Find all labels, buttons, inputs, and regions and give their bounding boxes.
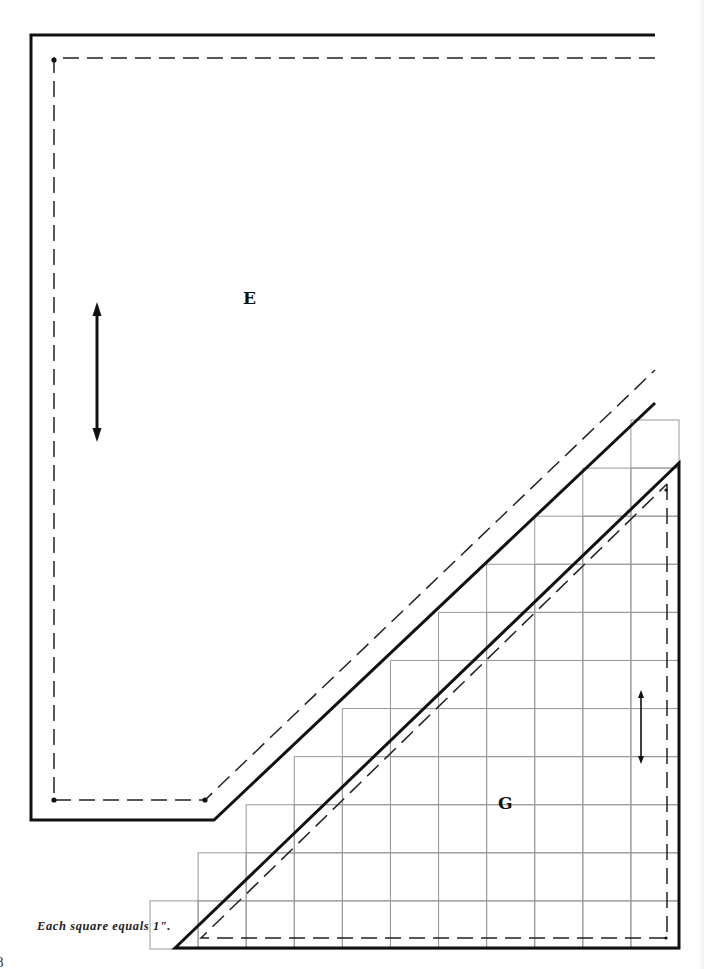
grid-square (342, 853, 390, 901)
grid-square (439, 757, 487, 805)
page-number: 8 (0, 954, 4, 969)
grid-square (535, 853, 583, 901)
grid-square (439, 709, 487, 757)
piece-g-corner-dot (664, 936, 667, 939)
grid-square (535, 757, 583, 805)
grid-square (439, 901, 487, 949)
grid-square (583, 468, 631, 516)
grid-square (583, 805, 631, 853)
grid-square (198, 901, 246, 949)
grid-square (583, 564, 631, 612)
piece-e-corner-dot (51, 57, 56, 62)
piece-g-corner-dot (664, 488, 667, 491)
grid-square (535, 660, 583, 708)
pattern-drawing (0, 0, 704, 969)
grid-square (246, 805, 294, 853)
piece-e-corner-dot (51, 797, 56, 802)
grid-square (439, 805, 487, 853)
grid-square (631, 468, 679, 516)
grid-square (631, 564, 679, 612)
grid-square (583, 853, 631, 901)
measurement-grid (150, 420, 679, 949)
grid-square (198, 853, 246, 901)
grid-square (390, 757, 438, 805)
grid-square (342, 901, 390, 949)
grid-square (294, 901, 342, 949)
grid-square (631, 612, 679, 660)
piece-g-label: G (498, 793, 513, 813)
grainline-double-arrow-icon (638, 690, 644, 764)
grid-square (535, 516, 583, 564)
piece-e-corner-dot (202, 797, 207, 802)
grid-square (631, 757, 679, 805)
grid-square (246, 901, 294, 949)
grid-square (342, 805, 390, 853)
grid-square (583, 612, 631, 660)
grid-square (390, 901, 438, 949)
grid-square (583, 516, 631, 564)
grid-square (535, 901, 583, 949)
piece-e-cutting-line (31, 35, 655, 820)
grid-square (487, 853, 535, 901)
grid-square (583, 757, 631, 805)
grid-square (487, 709, 535, 757)
grid-square (583, 660, 631, 708)
grid-square (535, 709, 583, 757)
grid-square (487, 901, 535, 949)
grid-square (583, 709, 631, 757)
grid-square (439, 853, 487, 901)
grainline-double-arrow-icon (93, 302, 102, 442)
grid-square (294, 853, 342, 901)
grid-square (294, 757, 342, 805)
grid-square (390, 805, 438, 853)
grid-square (583, 901, 631, 949)
grid-square (246, 853, 294, 901)
grid-square (487, 564, 535, 612)
grid-square (631, 660, 679, 708)
piece-e-label: E (243, 288, 256, 308)
scale-caption: Each square equals 1". (37, 919, 171, 934)
grid-square (631, 516, 679, 564)
grid-square (535, 612, 583, 660)
grid-square (631, 853, 679, 901)
grid-square (631, 901, 679, 949)
grid-square (390, 853, 438, 901)
grid-square (487, 660, 535, 708)
grid-square (631, 420, 679, 468)
grid-square (535, 805, 583, 853)
grid-square (631, 709, 679, 757)
grid-square (631, 805, 679, 853)
piece-g-cutting-line (175, 463, 679, 948)
piece-g-seam-line (201, 484, 667, 938)
